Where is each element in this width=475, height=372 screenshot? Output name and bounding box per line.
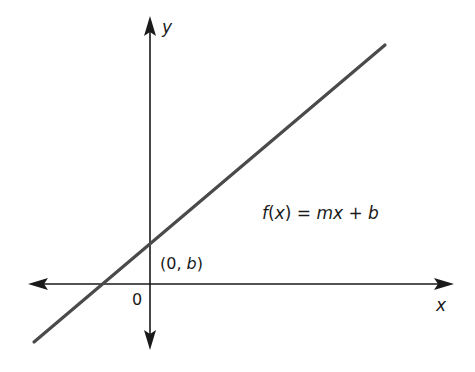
y-intercept-label: (0, b) <box>160 254 203 273</box>
origin-label: 0 <box>132 290 142 309</box>
x-axis-label: x <box>435 295 447 315</box>
linear-function-diagram: y x 0 (0, b) f(x) = mx + b <box>0 0 475 372</box>
x-axis <box>28 278 454 290</box>
y-axis-label: y <box>161 17 173 37</box>
y-axis <box>144 16 156 350</box>
function-line <box>34 45 385 342</box>
equation-label: f(x) = mx + b <box>262 203 379 223</box>
